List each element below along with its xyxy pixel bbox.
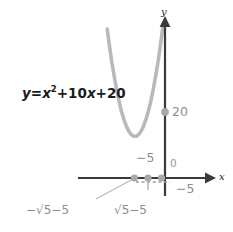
equation-term2-var: x <box>87 85 96 101</box>
y-axis-label: y <box>161 6 167 17</box>
root-right-point <box>158 174 165 181</box>
equation-plus-1: + <box>57 85 68 101</box>
parabola-curve <box>107 26 163 136</box>
y-tick-label-neg5: −5 <box>176 181 194 196</box>
graph-figure: y=x2+10x+20 x y 0 −5 −5 20 −√5−5 √5−5 <box>0 0 233 232</box>
x-axis-label: x <box>219 171 225 182</box>
x-tick-label-neg5: −5 <box>136 150 154 165</box>
equation-equals: = <box>31 85 42 101</box>
root-left-point <box>131 174 138 181</box>
equation-coefficient-10: 10 <box>68 85 87 101</box>
root-left-label: −√5−5 <box>26 203 69 217</box>
coordinate-plane-svg <box>0 0 233 232</box>
y-axis-arrow <box>160 16 171 27</box>
root-right-label: √5−5 <box>114 203 147 217</box>
x-axis-arrow <box>205 173 216 184</box>
equation-lhs: y <box>22 85 31 101</box>
root-left-leader-line <box>96 179 133 199</box>
equation-plus-2: + <box>96 85 107 101</box>
equation-constant-20: 20 <box>107 85 126 101</box>
equation-text: y=x2+10x+20 <box>22 84 126 101</box>
vertex-point <box>144 174 151 181</box>
origin-label: 0 <box>170 157 177 169</box>
equation-term1-base: x <box>42 85 51 101</box>
y-intercept-point <box>161 108 169 116</box>
y-intercept-label: 20 <box>172 104 188 119</box>
